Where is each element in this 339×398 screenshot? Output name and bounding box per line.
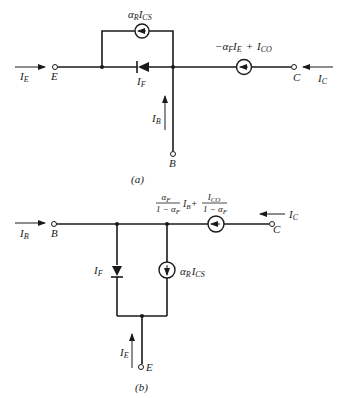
svg-text:1 − αF: 1 − αF <box>156 204 181 216</box>
svg-text:IB+: IB+ <box>182 198 197 211</box>
caption-b: (b) <box>135 381 148 394</box>
terminal-c-label-b: C <box>273 223 281 235</box>
ic-label-a: IC <box>317 72 328 86</box>
ib-label-a: IB <box>151 112 161 126</box>
terminal-e-label-b: E <box>145 361 153 373</box>
vertical-source-label-b: αRICS <box>180 265 205 279</box>
top-source-label-a: αRICS <box>128 8 152 22</box>
svg-text:1 − αF: 1 − αF <box>203 204 228 216</box>
terminal-b-label-b: B <box>51 227 58 239</box>
current-source-alpha-r-ics-a <box>135 24 149 38</box>
if-label-a: IF <box>136 75 146 89</box>
svg-text:αF: αF <box>161 192 171 204</box>
if-label-b: IF <box>93 264 103 278</box>
diode-b <box>111 266 123 277</box>
caption-a: (a) <box>131 173 144 186</box>
circuit-b: IB B IF αRICS E IE <box>15 192 299 394</box>
svg-text:ICO: ICO <box>207 192 221 204</box>
right-source-label-a: −αFIE+ICO <box>215 40 272 54</box>
current-source-top-b <box>208 216 224 232</box>
ic-label-b: IC <box>288 208 299 222</box>
current-source-right-a <box>237 60 252 75</box>
diode-a <box>137 61 149 73</box>
current-source-alpha-r-ics-b <box>159 262 175 278</box>
terminal-b-a <box>171 152 176 157</box>
ib-label-b: IB <box>19 227 29 241</box>
terminal-e-b <box>139 365 144 370</box>
terminal-e-a <box>53 65 58 70</box>
terminal-e-label-a: E <box>50 70 58 82</box>
circuit-a: IE E αRICS IF B IB <box>15 8 333 186</box>
terminal-c-label-a: C <box>293 71 301 83</box>
ie-label-b: IE <box>119 346 129 360</box>
terminal-b-label-a: B <box>169 157 176 169</box>
transistor-equivalent-circuits: IE E αRICS IF B IB <box>0 0 339 398</box>
terminal-b-b <box>52 222 57 227</box>
terminal-c-a <box>292 65 297 70</box>
top-source-label-b: αF 1 − αF IB+ ICO 1 − αF <box>156 192 228 216</box>
ie-label-a: IE <box>19 70 29 84</box>
